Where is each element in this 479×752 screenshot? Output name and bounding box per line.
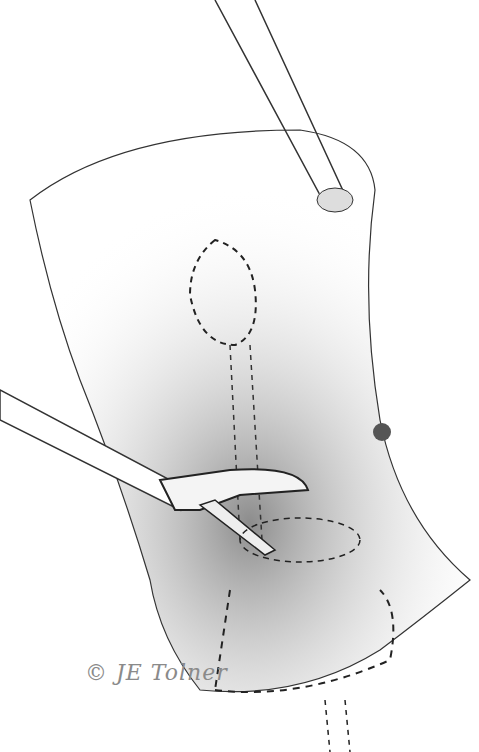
surgical-illustration: © JE Tolner bbox=[0, 0, 479, 752]
stomach-shape bbox=[30, 130, 470, 692]
nodule bbox=[373, 423, 391, 441]
illustration-drawing bbox=[0, 0, 479, 752]
artist-signature: © JE Tolner bbox=[85, 660, 228, 685]
dashed-exit-line bbox=[325, 700, 350, 752]
retractor-tip bbox=[317, 188, 353, 212]
